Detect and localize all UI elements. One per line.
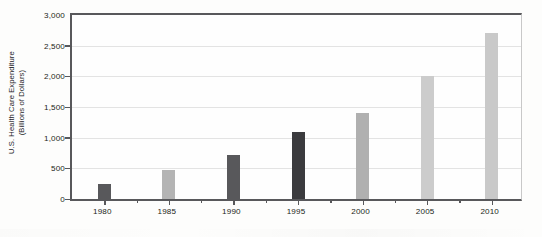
x-axis-tick-label: 1990 [222, 207, 241, 216]
bar-2000 [356, 113, 369, 199]
x-axis-tick-label: 2000 [351, 207, 370, 216]
y-axis-tick-mark [65, 45, 72, 47]
x-axis-tick-label: 1985 [158, 207, 177, 216]
x-axis-tick-labels: 1980198519901995200020052010 [70, 205, 522, 227]
scan-artifact [0, 229, 542, 237]
y-axis-title-line-1: U.S. Health Care Expenditure [6, 51, 15, 154]
y-axis-title-line-2: (Billions of Dollars) [16, 51, 26, 154]
plot-area [70, 13, 522, 201]
y-axis-tick-mark [65, 137, 72, 139]
y-axis-tick-labels: 05001,0001,5002,0002,5003,000 [28, 0, 68, 205]
y-axis-tick-label: 3,000 [44, 11, 65, 20]
x-axis-tick-label: 2010 [480, 207, 499, 216]
bar-1985 [162, 170, 175, 199]
bar-2005 [421, 76, 434, 199]
x-axis-tick-label: 2005 [416, 207, 435, 216]
x-axis-tick-label: 1995 [287, 207, 306, 216]
x-axis-minor-tick-mark [137, 199, 138, 203]
gridline [72, 46, 521, 47]
x-axis-minor-tick-mark [459, 199, 460, 203]
bar-2010 [485, 33, 498, 199]
bar-1980 [98, 184, 111, 199]
bar-1990 [227, 155, 240, 199]
x-axis-minor-tick-mark [330, 199, 331, 203]
x-axis-minor-tick-mark [266, 199, 267, 203]
y-axis-tick-label: 2,000 [44, 72, 65, 81]
x-axis-minor-tick-mark [395, 199, 396, 203]
y-axis-tick-mark [65, 199, 72, 201]
bar-chart-figure: U.S. Health Care Expenditure (Billions o… [0, 0, 542, 237]
y-axis-tick-mark [65, 107, 72, 109]
y-axis-tick-mark [65, 168, 72, 170]
x-axis-minor-tick-mark [201, 199, 202, 203]
y-axis-title: U.S. Health Care Expenditure (Billions o… [2, 0, 30, 205]
gridline [72, 107, 521, 108]
y-axis-tick-mark [65, 76, 72, 78]
y-axis-tick-label: 1,500 [44, 103, 65, 112]
y-axis-tick-label: 1,000 [44, 133, 65, 142]
y-axis-tick-label: 2,500 [44, 41, 65, 50]
y-axis-tick-label: 500 [51, 164, 65, 173]
x-axis-tick-label: 1980 [93, 207, 112, 216]
bar-1995 [292, 132, 305, 199]
gridline [72, 76, 521, 77]
